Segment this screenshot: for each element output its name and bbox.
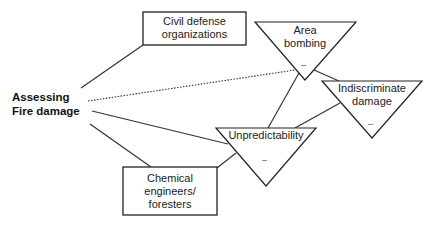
civil-defense-line2: organizations xyxy=(143,28,246,41)
indiscriminate-damage-label: Indiscriminate damage xyxy=(332,82,412,108)
indiscriminate-line2: damage xyxy=(332,95,412,108)
edge-area-bombing-indiscriminate xyxy=(314,70,339,81)
chemical-line1: Chemical xyxy=(123,172,217,185)
unpredictability-minus-sign: – xyxy=(262,155,267,165)
edge-assessing-civil-defense xyxy=(81,45,143,88)
edge-area-bombing-unpredictability xyxy=(268,73,299,128)
edge-assessing-area-bombing-dotted xyxy=(88,70,295,101)
assessing-fire-damage-label: Assessing Fire damage xyxy=(12,90,102,118)
civil-defense-label: Civil defense organizations xyxy=(143,15,246,41)
edge-assessing-chemical xyxy=(90,124,151,167)
area-bombing-minus-sign: – xyxy=(301,60,306,70)
indiscriminate-line1: Indiscriminate xyxy=(332,82,412,95)
chemical-engineers-label: Chemical engineers/ foresters xyxy=(123,172,217,211)
unpredictability-line1: Unpredictability xyxy=(226,129,306,142)
unpredictability-label: Unpredictability xyxy=(226,129,306,142)
central-line2: Fire damage xyxy=(12,104,102,118)
area-bombing-label: Area bombing xyxy=(270,24,340,50)
area-bombing-line1: Area xyxy=(270,24,340,37)
central-line1: Assessing xyxy=(12,90,102,104)
chemical-line3: foresters xyxy=(123,198,217,211)
chemical-line2: engineers/ xyxy=(123,185,217,198)
area-bombing-line2: bombing xyxy=(270,37,340,50)
edge-assessing-unpredictability xyxy=(92,111,228,144)
edge-chemical-unpredictability xyxy=(217,153,236,168)
civil-defense-line1: Civil defense xyxy=(143,15,246,28)
indiscriminate-minus-sign: – xyxy=(368,119,373,129)
